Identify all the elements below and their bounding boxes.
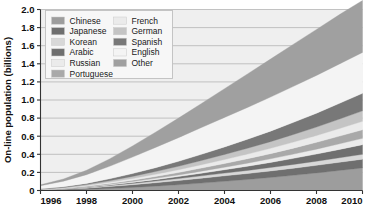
legend-label-chinese: Chinese	[70, 16, 101, 26]
legend-label-other: Other	[132, 58, 153, 68]
y-tick-label-1: 0.2	[21, 167, 34, 178]
legend-item-korean[interactable]: Korean	[52, 37, 98, 47]
legend-swatch-french	[114, 17, 127, 24]
legend-swatch-english	[114, 49, 127, 56]
legend-label-japanese: Japanese	[70, 26, 107, 36]
x-tick-label-0: 1996	[41, 195, 62, 206]
legend-item-french[interactable]: French	[114, 16, 159, 26]
legend-label-arabic: Arabic	[70, 47, 95, 57]
legend-label-german: German	[132, 26, 163, 36]
legend-label-portuguese: Portuguese	[70, 69, 114, 79]
legend-item-german[interactable]: German	[114, 26, 163, 36]
chart-container: 00.20.40.60.81.01.21.41.61.82.0 19961998…	[0, 0, 375, 214]
legend-label-french: French	[132, 16, 159, 26]
legend-item-arabic[interactable]: Arabic	[52, 47, 95, 57]
y-tick-label-8: 1.6	[21, 40, 34, 51]
x-tick-label-3: 2002	[168, 195, 189, 206]
legend-label-spanish: Spanish	[132, 37, 163, 47]
legend-item-japanese[interactable]: Japanese	[52, 26, 107, 36]
legend-swatch-chinese	[52, 17, 65, 24]
legend-swatch-arabic	[52, 49, 65, 56]
y-tick-label-3: 0.6	[21, 131, 34, 142]
legend-item-russian[interactable]: Russian	[52, 58, 101, 68]
x-tick-label-5: 2006	[260, 195, 281, 206]
y-tick-label-10: 2.0	[21, 4, 34, 15]
legend-label-russian: Russian	[70, 58, 101, 68]
legend-item-other[interactable]: Other	[114, 58, 153, 68]
x-tick-label-4: 2004	[214, 195, 236, 206]
y-axis-title-text: On-line population (billions)	[2, 37, 13, 163]
legend-swatch-russian	[52, 59, 65, 66]
y-tick-label-7: 1.4	[21, 58, 35, 69]
x-tick-label-7: 2010	[341, 195, 362, 206]
legend-item-chinese[interactable]: Chinese	[52, 16, 101, 26]
y-tick-label-0: 0	[29, 185, 34, 196]
legend-label-english: English	[132, 47, 160, 57]
y-axis-title: On-line population (billions)	[2, 37, 13, 163]
legend-item-portuguese[interactable]: Portuguese	[52, 69, 114, 79]
y-axis-tick-labels: 00.20.40.60.81.01.21.41.61.82.0	[21, 4, 35, 196]
legend-swatch-japanese	[52, 28, 65, 35]
legend-item-english[interactable]: English	[114, 47, 160, 57]
legend-swatch-spanish	[114, 38, 127, 45]
legend-label-korean: Korean	[70, 37, 98, 47]
x-tick-label-1: 1998	[76, 195, 97, 206]
legend-swatch-portuguese	[52, 70, 65, 77]
legend-item-spanish[interactable]: Spanish	[114, 37, 163, 47]
y-tick-label-6: 1.2	[21, 76, 34, 87]
x-tick-label-6: 2008	[306, 195, 327, 206]
x-tick-label-2: 2000	[122, 195, 143, 206]
y-tick-label-4: 0.8	[21, 112, 34, 123]
chart-legend: ChineseJapaneseKoreanArabicRussianPortug…	[46, 11, 173, 79]
legend-swatch-other	[114, 59, 127, 66]
legend-swatch-german	[114, 28, 127, 35]
legend-swatch-korean	[52, 38, 65, 45]
y-tick-label-2: 0.4	[21, 149, 35, 160]
y-tick-label-9: 1.8	[21, 22, 34, 33]
y-tick-label-5: 1.0	[21, 94, 34, 105]
online-population-stacked-area-chart: 00.20.40.60.81.01.21.41.61.82.0 19961998…	[0, 0, 375, 214]
